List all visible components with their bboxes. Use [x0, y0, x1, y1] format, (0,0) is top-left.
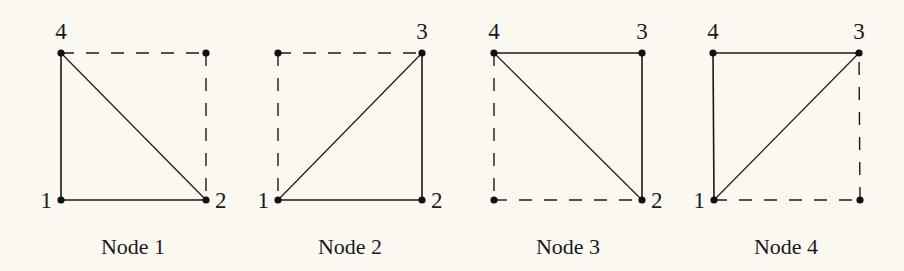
panel-caption: Node 3 [536, 234, 600, 259]
vertex-number-label: 3 [853, 19, 865, 44]
vertex-number-label: 2 [651, 188, 663, 213]
vertex-number-label: 4 [707, 19, 719, 44]
solid-edge [713, 53, 714, 200]
vertex-number-label: 3 [416, 19, 428, 44]
vertex-number-label: 3 [636, 19, 648, 44]
vertex-dot [57, 49, 64, 56]
node-triangle-diagram: 124Node 1123Node 2234Node 3134Node 4 [0, 0, 904, 271]
vertex-dot [418, 49, 425, 56]
vertex-number-label: 1 [694, 188, 706, 213]
vertex-dot [490, 196, 497, 203]
vertex-number-label: 2 [215, 188, 227, 213]
vertex-dot [202, 196, 209, 203]
vertex-dot [709, 49, 716, 56]
background [0, 0, 904, 271]
vertex-dot [710, 196, 717, 203]
vertex-dot [490, 49, 497, 56]
vertex-dot [274, 196, 281, 203]
vertex-number-label: 1 [41, 188, 53, 213]
vertex-number-label: 1 [258, 188, 270, 213]
vertex-dot [638, 196, 645, 203]
vertex-dot [638, 49, 645, 56]
vertex-dot [202, 49, 209, 56]
panel-caption: Node 1 [101, 234, 165, 259]
panel-caption: Node 4 [754, 234, 818, 259]
vertex-dot [856, 196, 863, 203]
vertex-dot [855, 49, 862, 56]
vertex-number-label: 4 [55, 19, 67, 44]
panel-caption: Node 2 [318, 234, 382, 259]
vertex-number-label: 4 [488, 19, 500, 44]
vertex-dot [418, 196, 425, 203]
vertex-dot [57, 196, 64, 203]
vertex-dot [274, 49, 281, 56]
vertex-number-label: 2 [431, 188, 443, 213]
